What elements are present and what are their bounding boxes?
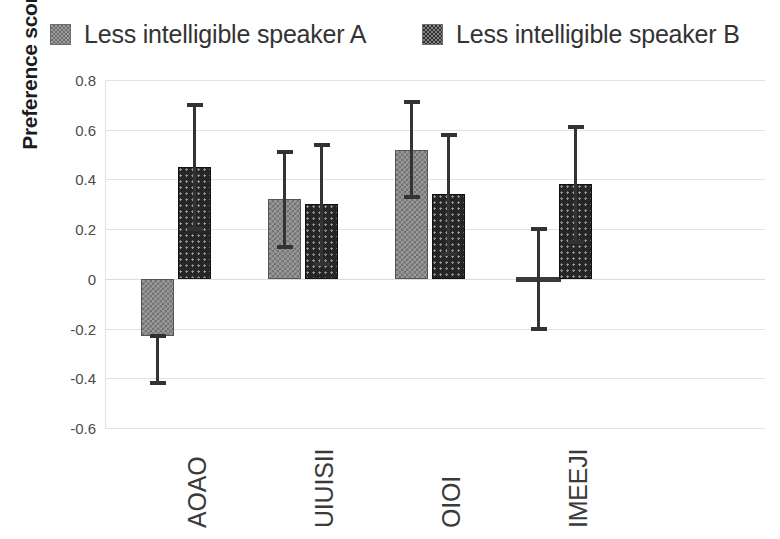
x-axis-label-uiuisii: UIUISII [312,449,337,528]
x-axis-label-oioi: OIOI [439,476,464,528]
x-axis-category-labels: AOAOUIUISIIOIOIIMEEJI [0,0,780,539]
x-axis-label-imeeji: IMEEJI [566,449,591,528]
x-axis-label-aoao: AOAO [185,457,210,528]
bar-chart: Less intelligible speaker A Less intelli… [0,0,780,539]
